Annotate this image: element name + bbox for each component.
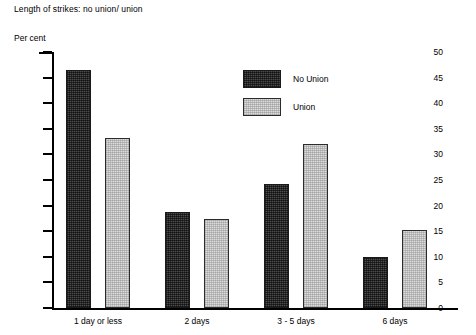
y-axis-tick-label: 20 bbox=[403, 201, 443, 211]
y-axis-line bbox=[52, 52, 54, 308]
y-axis-tick bbox=[43, 281, 52, 283]
bar bbox=[264, 184, 289, 308]
chart-title: Length of strikes: no union/ union bbox=[14, 4, 143, 14]
bar bbox=[402, 230, 427, 308]
bar bbox=[165, 212, 190, 308]
legend-label-no-union: No Union bbox=[293, 74, 328, 84]
y-axis-tick bbox=[43, 128, 52, 130]
y-axis-tick bbox=[43, 102, 52, 104]
bar bbox=[303, 144, 328, 308]
x-axis-tick-label: 6 days bbox=[382, 316, 407, 326]
y-axis-label: Per cent bbox=[14, 33, 46, 43]
y-axis-tick bbox=[43, 230, 52, 232]
bar bbox=[363, 257, 388, 308]
x-axis-tick-label: 2 days bbox=[184, 316, 209, 326]
bar bbox=[105, 138, 130, 308]
y-axis-tick-label: 25 bbox=[403, 175, 443, 185]
x-axis-tick-label: 1 day or less bbox=[74, 316, 122, 326]
y-axis-tick-label: 45 bbox=[403, 73, 443, 83]
y-axis-tick bbox=[43, 307, 52, 309]
y-axis-tick bbox=[43, 153, 52, 155]
x-axis-tick-label: 3 - 5 days bbox=[277, 316, 314, 326]
bar bbox=[66, 70, 91, 308]
y-axis-tick bbox=[43, 51, 52, 53]
y-axis-tick-label: 35 bbox=[403, 124, 443, 134]
y-axis-tick-label: 40 bbox=[403, 98, 443, 108]
x-axis-line bbox=[52, 308, 458, 310]
y-axis-tick bbox=[43, 205, 52, 207]
y-axis-tick bbox=[43, 256, 52, 258]
y-axis-tick-label: 50 bbox=[403, 47, 443, 57]
bar-chart: Length of strikes: no union/ union Per c… bbox=[0, 0, 476, 335]
bar bbox=[204, 219, 229, 308]
y-axis-tick-label: 30 bbox=[403, 149, 443, 159]
legend-swatch-no-union bbox=[243, 70, 281, 88]
y-axis-tick bbox=[43, 77, 52, 79]
y-axis-tick bbox=[43, 179, 52, 181]
plot-area: 05101520253035404550 1 day or less2 days… bbox=[52, 52, 458, 308]
legend-label-union: Union bbox=[293, 102, 315, 112]
legend-swatch-union bbox=[243, 98, 281, 116]
